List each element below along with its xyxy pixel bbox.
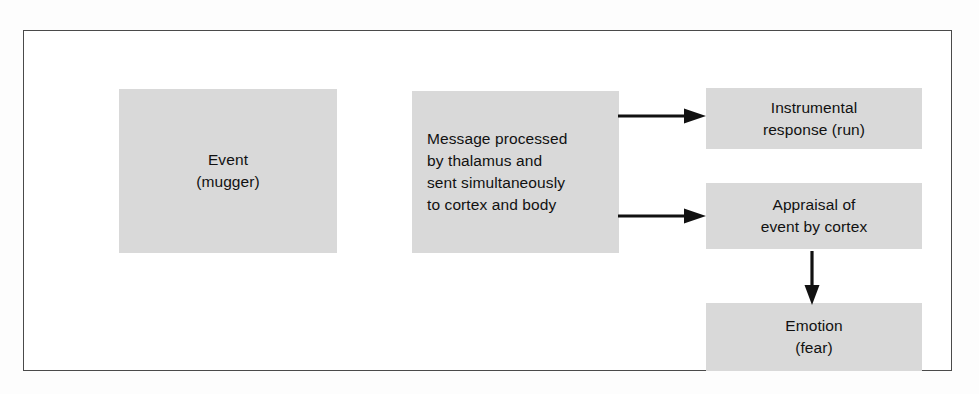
- arrow-right-icon-message-to-instrumental: [618, 107, 708, 125]
- arrow-right-icon-message-to-appraisal: [618, 207, 708, 225]
- node-message-processed: Message processed by thalamus and sent s…: [412, 91, 619, 253]
- node-appraisal-of-event-label: Appraisal of event by cortex: [755, 194, 874, 238]
- node-appraisal-of-event: Appraisal of event by cortex: [706, 183, 922, 249]
- figure-canvas: Event (mugger) Message processed by thal…: [0, 0, 979, 394]
- node-emotion: Emotion (fear): [706, 303, 922, 371]
- figure-border-frame: Event (mugger) Message processed by thal…: [23, 30, 952, 371]
- node-instrumental-response: Instrumental response (run): [706, 88, 922, 149]
- node-message-processed-label: Message processed by thalamus and sent s…: [412, 128, 567, 216]
- node-event-label: Event (mugger): [190, 149, 266, 193]
- node-emotion-label: Emotion (fear): [779, 315, 849, 359]
- arrow-down-icon-appraisal-to-emotion: [802, 251, 822, 307]
- node-event: Event (mugger): [119, 89, 337, 253]
- node-instrumental-response-label: Instrumental response (run): [757, 97, 871, 141]
